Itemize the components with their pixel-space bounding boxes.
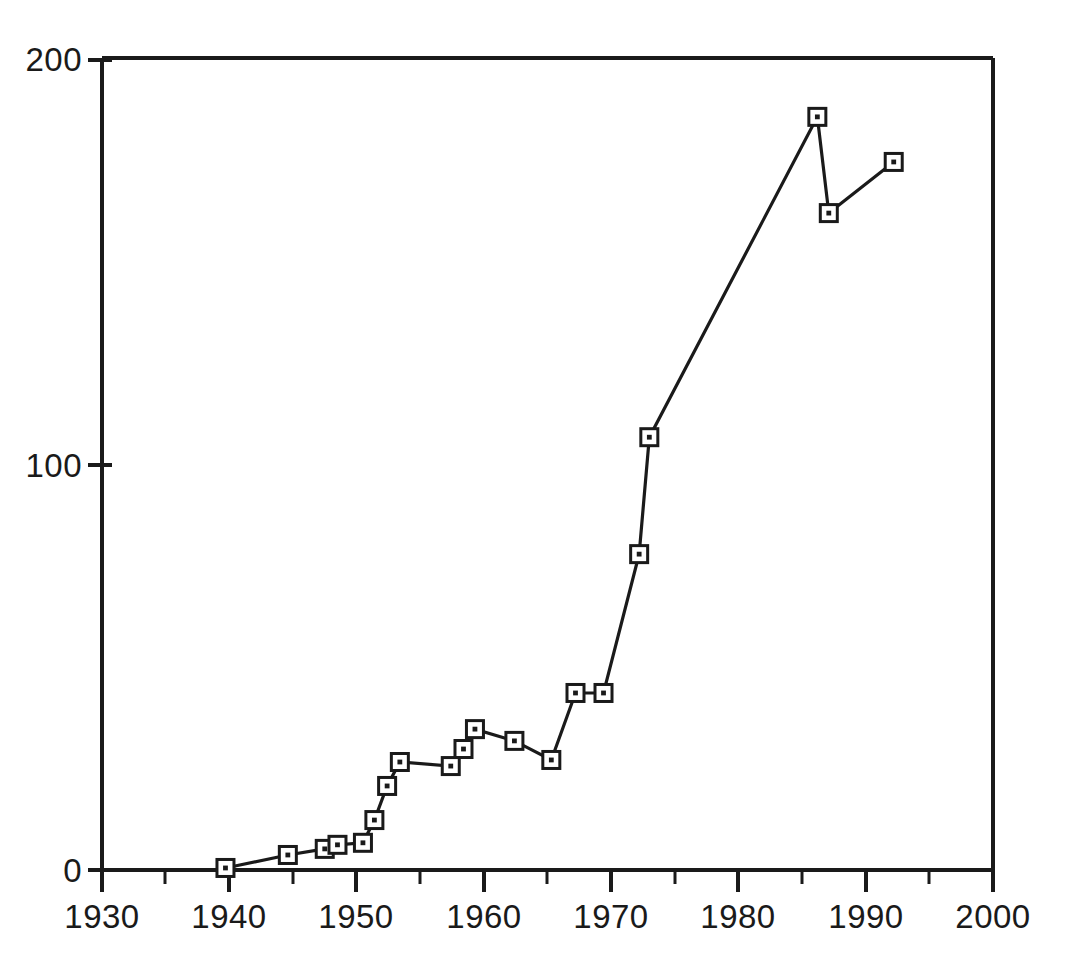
data-point-center-dot: [448, 764, 453, 769]
data-point-center-dot: [512, 738, 517, 743]
data-point-center-dot: [891, 160, 896, 165]
data-point-center-dot: [601, 691, 606, 696]
data-point-center-dot: [473, 727, 478, 732]
data-point-center-dot: [549, 758, 554, 763]
data-point-center-dot: [335, 842, 340, 847]
x-tick-label-1990: 1990: [828, 898, 903, 935]
line-chart: 200 100 0 1930 1940 1950 1960 1970 1980 …: [0, 0, 1079, 970]
x-tick-label-1940: 1940: [191, 898, 266, 935]
data-point-center-dot: [322, 846, 327, 851]
data-point-center-dot: [285, 853, 290, 858]
x-axis-tick-labels: 1930 1940 1950 1960 1970 1980 1990 2000: [64, 898, 1030, 935]
y-axis-tick-labels: 200 100 0: [25, 41, 82, 889]
data-point-center-dot: [385, 784, 390, 789]
chart-container: 200 100 0 1930 1940 1950 1960 1970 1980 …: [0, 0, 1079, 970]
x-tick-label-1950: 1950: [318, 898, 393, 935]
data-point-center-dot: [647, 435, 652, 440]
data-point-center-dot: [815, 114, 820, 119]
x-tick-label-1970: 1970: [573, 898, 648, 935]
data-point-center-dot: [826, 211, 831, 216]
x-axis-minor-ticks: [165, 870, 929, 884]
data-point-center-dot: [223, 866, 228, 871]
data-point-center-dot: [397, 760, 402, 765]
data-point-center-dot: [461, 747, 466, 752]
data-point-center-dot: [637, 552, 642, 557]
y-tick-label-0: 0: [63, 852, 82, 889]
series-markers-1: [217, 108, 902, 876]
data-point-center-dot: [361, 840, 366, 845]
data-point-center-dot: [372, 818, 377, 823]
x-tick-label-1960: 1960: [446, 898, 521, 935]
x-tick-label-1930: 1930: [64, 898, 139, 935]
x-tick-label-1980: 1980: [700, 898, 775, 935]
y-tick-label-100: 100: [25, 447, 82, 484]
data-series-group: [217, 108, 902, 876]
y-tick-label-200: 200: [25, 41, 82, 78]
data-point-center-dot: [573, 691, 578, 696]
plot-frame: [102, 58, 993, 870]
x-tick-label-2000: 2000: [955, 898, 1030, 935]
